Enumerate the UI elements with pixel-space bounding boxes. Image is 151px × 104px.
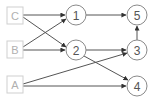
- node-label-1: 1: [73, 9, 80, 23]
- node-label-2: 2: [73, 44, 80, 58]
- input-box-a: A: [7, 76, 23, 93]
- node-2: 2: [66, 40, 86, 60]
- input-label-a: A: [11, 79, 19, 91]
- node-label-4: 4: [134, 80, 141, 94]
- input-label-b: B: [11, 44, 18, 56]
- node-label-3: 3: [134, 44, 141, 58]
- node-3: 3: [127, 40, 147, 60]
- input-box-c: C: [7, 7, 23, 24]
- node-5: 5: [127, 5, 147, 25]
- input-box-b: B: [7, 41, 23, 58]
- node-4: 4: [127, 76, 147, 96]
- node-1: 1: [66, 5, 86, 25]
- graph-diagram: C B A 1 2 5 3 4: [0, 0, 151, 104]
- input-label-c: C: [11, 10, 19, 22]
- node-label-5: 5: [134, 9, 141, 23]
